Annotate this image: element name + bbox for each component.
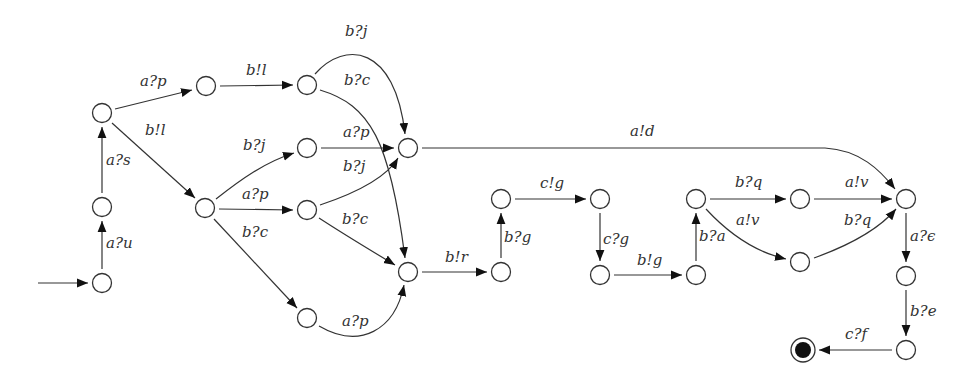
state-node [298,76,317,95]
state-node [687,266,706,285]
state-node [687,190,706,209]
edge-n8-n19 [422,148,895,189]
state-node [791,190,810,209]
edge-label: b?c [342,210,369,228]
edge-label: a?p [342,312,369,330]
state-node [399,263,418,282]
edge-label: b?j [343,157,366,175]
edge-label: c?f [845,325,869,343]
edge-label: b?q [735,173,762,191]
edge-label: b?c [344,71,371,89]
edge-label: b?a [699,227,726,245]
edge-label: a?p [343,123,370,141]
edge-label: a?u [106,234,133,252]
state-node [897,341,916,360]
state-node [197,77,216,96]
state-node [298,139,317,158]
edge-label: b!r [445,248,469,266]
edge-label: c?g [603,230,629,248]
state-diagram: a?u a?s a?p b!l b!l b?j b?c b?j a?p a?p … [0,0,973,382]
final-state-inner [795,342,811,358]
edge-n2-n3 [115,90,192,109]
edge-label: b!l [145,121,166,139]
edge-label: b?j [243,136,266,154]
edge-label: b?q [844,211,871,229]
state-node-hub [399,139,418,158]
edge-label: b?g [504,228,531,246]
state-node [93,104,112,123]
state-node [897,190,916,209]
state-node [492,190,511,209]
state-node [791,253,810,272]
state-node [93,198,112,217]
edge-label: a?p [140,72,167,90]
state-node [492,263,511,282]
edge-n3-n4 [220,85,293,86]
state-node [591,266,610,285]
state-node [298,201,317,220]
state-node [93,274,112,293]
edge-label: b?c [242,223,269,241]
edge-label: a?ϵ [910,227,936,245]
state-node [196,199,215,218]
edge-label: a!v [736,211,760,229]
edge-label: a!d [630,122,655,140]
edge-label: a!v [845,173,869,191]
edge-label: b!l [246,61,267,79]
edge-label: c!g [540,174,564,192]
edge-label: a?s [106,151,131,169]
state-node [298,309,317,328]
edge-label: a?p [242,185,269,203]
edge-label: b!g [637,251,662,269]
edge-label: b?j [345,22,368,40]
edge-n6-n7 [219,209,293,210]
edge-label: b?e [910,302,937,320]
state-node [897,267,916,286]
state-node [591,190,610,209]
